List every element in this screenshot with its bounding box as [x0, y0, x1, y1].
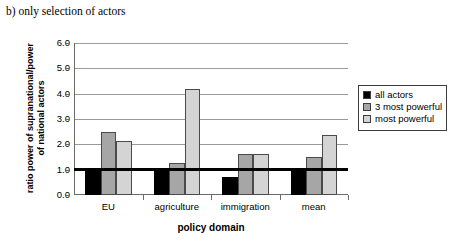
x-axis-tick-mark — [348, 195, 349, 200]
bar — [154, 170, 170, 195]
bar — [85, 170, 101, 195]
legend-label: 3 most powerful — [375, 102, 442, 112]
x-axis-tick-labels: EUagricultureimmigrationmean — [74, 201, 348, 215]
gridline — [74, 68, 348, 69]
bar — [222, 177, 238, 195]
y-axis-tick-mark — [66, 119, 70, 120]
plot-area — [74, 43, 348, 195]
bar — [101, 132, 117, 195]
y-axis-tick-labels: 0.01.02.03.04.05.06.0 — [40, 43, 70, 195]
gridline — [74, 94, 348, 95]
x-axis-tick-mark — [280, 195, 281, 200]
bar — [185, 89, 201, 195]
x-axis-tick-mark — [211, 195, 212, 200]
legend-item[interactable]: all actors — [363, 90, 442, 100]
x-axis-tick-label: immigration — [211, 201, 280, 212]
x-axis-tick-mark — [143, 195, 144, 200]
legend-swatch-icon — [363, 91, 371, 99]
bar — [253, 154, 269, 195]
legend-label: all actors — [375, 90, 413, 100]
y-axis-tick-mark — [66, 144, 70, 145]
bar — [306, 157, 322, 195]
legend: all actors3 most powerfulmost powerful — [358, 85, 447, 131]
legend-item[interactable]: 3 most powerful — [363, 102, 442, 112]
y-axis-tick-mark — [66, 68, 70, 69]
gridline — [74, 119, 348, 120]
x-axis-tick-label: EU — [74, 201, 143, 212]
reference-line — [74, 168, 348, 171]
gridline — [74, 43, 348, 44]
bar — [322, 135, 338, 195]
y-axis-tick-mark — [66, 170, 70, 171]
figure-caption: b) only selection of actors — [6, 5, 125, 18]
legend-swatch-icon — [363, 115, 371, 123]
x-axis-tick-label: mean — [280, 201, 349, 212]
x-axis-tick-label: agriculture — [143, 201, 212, 212]
legend-item[interactable]: most powerful — [363, 114, 442, 124]
legend-label: most powerful — [375, 114, 434, 124]
y-axis-tick-mark — [66, 195, 70, 196]
y-axis-line — [74, 43, 75, 195]
legend-swatch-icon — [363, 103, 371, 111]
y-axis-tick-mark — [66, 43, 70, 44]
bar — [291, 170, 307, 195]
bar — [238, 154, 254, 195]
x-axis-title: policy domain — [74, 222, 348, 234]
y-axis-tick-mark — [66, 94, 70, 95]
figure: b) only selection of actors ratio power … — [0, 0, 456, 243]
